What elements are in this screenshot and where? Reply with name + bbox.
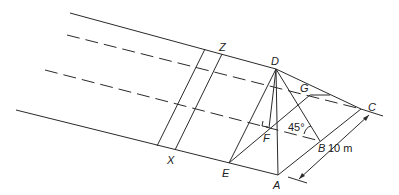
edge-DE xyxy=(229,69,276,163)
geometry-diagram: D Z G C F B X E A 45° 10 m xyxy=(0,0,399,195)
dimension-label: 10 m xyxy=(328,142,352,154)
label-C: C xyxy=(368,101,376,113)
label-G: G xyxy=(300,82,309,94)
dimension-tick-bottom xyxy=(288,177,307,183)
label-B: B xyxy=(318,142,325,154)
label-A: A xyxy=(272,179,280,191)
top-solid-line xyxy=(70,13,276,69)
right-angle-marker xyxy=(262,121,268,127)
label-Z: Z xyxy=(218,41,227,53)
label-X: X xyxy=(166,154,175,166)
angle-label: 45° xyxy=(288,121,305,133)
lower-dashed-line xyxy=(45,70,320,141)
upper-dashed-line xyxy=(67,35,361,109)
label-F: F xyxy=(263,132,271,144)
edge-DF xyxy=(269,69,276,128)
label-D: D xyxy=(271,55,279,67)
label-E: E xyxy=(222,167,230,179)
angle-arc-45 xyxy=(304,126,311,134)
